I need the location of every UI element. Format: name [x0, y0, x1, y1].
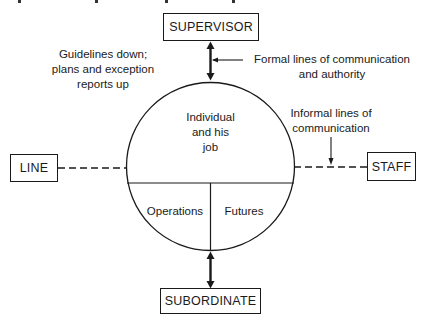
cropped-text-fragment: [18, 0, 21, 3]
operations-label: Operations: [140, 204, 210, 219]
line-label: LINE: [20, 161, 49, 175]
cropped-text-fragment: [95, 0, 98, 3]
arrow-up-icon: [207, 252, 215, 260]
circle-text-line: job: [153, 140, 268, 155]
staff-label: STAFF: [372, 160, 412, 174]
circle-text-line: and his: [153, 125, 268, 140]
cropped-text-fragment: [165, 0, 168, 3]
annotation-line: communication: [281, 121, 381, 136]
line-box: LINE: [10, 154, 58, 182]
guidelines-annotation: Guidelines down; plans and exception rep…: [40, 47, 166, 92]
circle-top-text: Individual and his job: [153, 110, 268, 155]
arrow-up-icon: [207, 42, 215, 50]
arrow-down-icon: [207, 73, 215, 81]
arrow-down-icon: [329, 158, 334, 165]
annotation-line: Informal lines of: [281, 106, 381, 121]
circle-text-line: Individual: [153, 110, 268, 125]
subordinate-label: SUBORDINATE: [165, 294, 257, 308]
informal-annotation: Informal lines of communication: [281, 106, 381, 136]
arrow-left-icon: [212, 58, 218, 63]
formal-annotation: Formal lines of communication and author…: [246, 52, 418, 82]
annotation-line: Formal lines of communication: [246, 52, 418, 67]
supervisor-label: SUPERVISOR: [169, 20, 253, 34]
cropped-text-fragment: [232, 0, 235, 3]
subordinate-box: SUBORDINATE: [160, 288, 261, 314]
staff-box: STAFF: [367, 152, 416, 181]
annotation-line: and authority: [246, 67, 418, 82]
futures-label: Futures: [213, 204, 275, 219]
annotation-line: plans and exception: [40, 62, 166, 77]
annotation-line: reports up: [40, 77, 166, 92]
supervisor-box: SUPERVISOR: [163, 13, 259, 41]
annotation-line: Guidelines down;: [40, 47, 166, 62]
